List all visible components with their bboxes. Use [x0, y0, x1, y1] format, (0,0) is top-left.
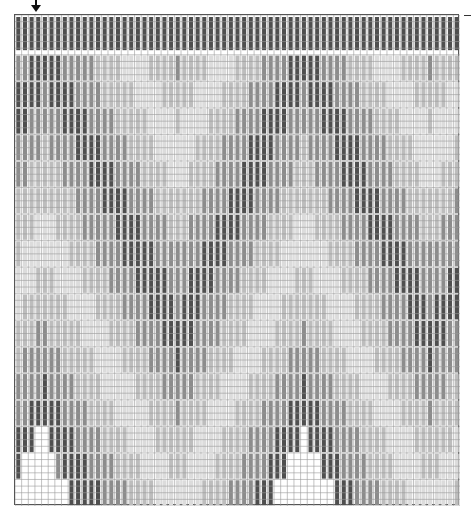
stitch-grid: [15, 15, 460, 506]
stitch-chart: [14, 14, 459, 505]
center-mark: [464, 15, 471, 16]
